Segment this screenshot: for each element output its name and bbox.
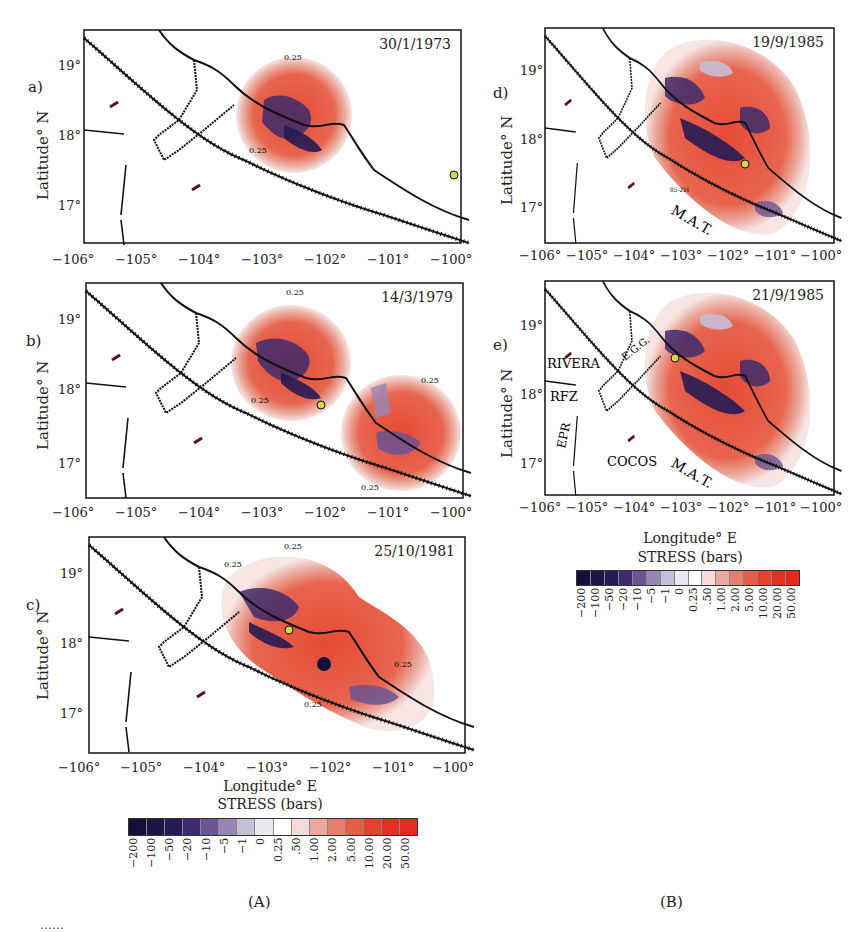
contour-label: 0.25 [284,53,302,62]
y-tick: 18° [58,382,81,397]
panel-c: 0.25 0.25 0.25 0.25 25/10/1981 [89,537,465,753]
cbar-swatch [591,571,605,585]
panel-date: 14/3/1979 [381,289,453,305]
contour-label: 0.25 [224,560,242,569]
x-tick: −102° [304,505,346,520]
fault-label-rfz: RFZ [550,389,578,404]
y-tick: 19° [520,318,543,333]
cbar-label: 1.00 [716,588,730,634]
contour-label: 0.25 [361,483,379,492]
x-tick: −104° [183,760,225,775]
fault-label-85zh: 85-ZH [670,186,689,193]
x-tick: −103° [241,505,283,520]
subfigure-label-a: (A) [248,893,271,911]
cbar-swatch [364,819,382,835]
cbar-label: 10.00 [364,838,382,886]
x-tick: −102° [707,248,749,263]
cbar-swatch [346,819,364,835]
x-tick: −106° [52,505,94,520]
cbar-label: −10 [632,588,646,634]
cbar-label: 1.00 [309,838,327,886]
panel-label-d: d) [493,84,508,102]
contour-label: 0.25 [286,288,304,297]
cbar-label: −100 [590,588,604,634]
cbar-swatch [219,819,237,835]
cbar-label: 10.00 [758,588,772,634]
colorbar-title: STRESS (bars) [200,796,340,812]
x-tick: −102° [309,760,351,775]
cbar-swatch [400,819,417,835]
cbar-swatch [382,819,400,835]
x-tick: −100° [430,505,472,520]
y-tick: 18° [520,387,543,402]
cbar-swatch [661,571,675,585]
panel-e: RIVERA E.G.G. RFZ EPR COCOS M.A.T. 21/9/… [545,281,834,495]
x-tick: −105° [115,252,157,267]
cbar-label: 20.00 [772,588,786,634]
cbar-label: 0.25 [688,588,702,634]
subfigure-label-b: (B) [660,893,683,911]
cbar-swatch [237,819,255,835]
x-tick: −105° [566,248,608,263]
contour-label: 0.25 [249,146,267,155]
figure-caption: …… [40,918,64,932]
cbar-label: −5 [219,838,237,886]
cbar-swatch [201,819,219,835]
panel-label-a: a) [28,78,43,96]
panel-date: 19/9/1985 [752,34,824,50]
map-d: 85-ZH M.A.T. [545,28,834,243]
x-axis-label: Longitude° E [200,778,340,794]
contour-label: 0.25 [421,376,439,385]
x-tick: −105° [120,760,162,775]
cbar-label: 0 [674,588,688,634]
panel-date: 25/10/1981 [374,543,455,559]
y-axis-label: Latitude° N [34,611,52,700]
x-tick: −106° [519,248,561,263]
contour-label: 0.25 [394,660,412,669]
cbar-label: −50 [604,588,618,634]
cbar-swatch [758,571,772,585]
x-tick: −101° [367,252,409,267]
cbar-swatch [147,819,165,835]
cbar-swatch [702,571,716,585]
x-tick: −104° [178,252,220,267]
cbar-label: .50 [291,838,309,886]
panel-a: 0.25 0.25 30/1/1973 [84,30,461,243]
x-tick: −106° [519,500,561,515]
plate-label-rivera: RIVERA [547,356,601,371]
cbar-swatch [619,571,633,585]
cbar-swatch [647,571,661,585]
cbar-label: −10 [201,838,219,886]
panel-d: 85-ZH M.A.T. 19/9/1985 [545,28,834,243]
cbar-label: 2.00 [327,838,345,886]
cbar-label: −20 [182,838,200,886]
cbar-swatch [328,819,346,835]
colorbar-labels-b: −200 −100 −50 −20 −10 −5 −1 0 0.25 .50 1… [576,588,800,634]
y-axis-label: Latitude° N [34,361,52,450]
y-tick: 19° [58,312,81,327]
x-tick: −103° [660,248,702,263]
cbar-label: 50.00 [786,588,800,634]
cbar-swatch [274,819,292,835]
map-c: 0.25 0.25 0.25 0.25 [89,537,465,753]
x-tick: −106° [58,760,100,775]
contour-label: 0.25 [304,700,322,709]
colorbar-title: STRESS (bars) [620,549,760,565]
cbar-label: −5 [646,588,660,634]
cbar-label: 50.00 [400,838,418,886]
x-tick: −104° [613,500,655,515]
y-tick: 18° [520,132,543,147]
y-tick: 19° [58,58,81,73]
panel-label-b: b) [26,332,41,350]
y-tick: 18° [58,128,81,143]
x-tick: −100° [432,760,474,775]
cbar-label: 5.00 [744,588,758,634]
x-tick: −101° [372,760,414,775]
cbar-label: 2.00 [730,588,744,634]
y-axis-label: Latitude° N [498,369,516,458]
map-a: 0.25 0.25 [84,30,461,243]
x-tick: −100° [430,252,472,267]
cbar-label: −200 [576,588,590,634]
cbar-swatch [310,819,328,835]
map-b: 0.25 0.25 0.25 0.25 [86,283,463,498]
